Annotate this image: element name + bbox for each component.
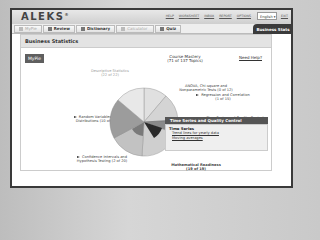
book-icon (81, 27, 85, 31)
calculator-icon (121, 27, 125, 31)
tab-quiz[interactable]: Quiz (155, 25, 181, 33)
course-mastery-title: Course Mastery(71 of 137 Topics) (150, 55, 220, 64)
need-help-link[interactable]: Need Help? (239, 55, 262, 60)
options-link[interactable]: OPTIONS (237, 14, 251, 18)
inbox-link[interactable]: INBOX (204, 14, 214, 18)
tab-review[interactable]: Review (43, 25, 75, 33)
arrow-icon (77, 156, 80, 158)
topic-link-moving-averages[interactable]: Moving averages (169, 136, 264, 141)
mypie-button[interactable]: MyPie (25, 54, 44, 63)
label-mathematical-readiness[interactable]: Mathematical Readiness(19 of 19) (166, 163, 226, 172)
label-regression[interactable]: Regression and Correlation(1 of 15) (188, 93, 258, 102)
top-bar: ALEKS® HELP WORKSHEET INBOX REPORT OPTIO… (12, 10, 291, 25)
language-select[interactable]: English ▾ (257, 12, 277, 20)
quiz-icon (160, 27, 164, 31)
arrow-icon (196, 94, 199, 96)
exit-link[interactable]: EXIT (281, 14, 288, 18)
pie-icon (19, 27, 23, 31)
tooltip-body: Time Series Trend lines for yearly data … (165, 124, 268, 151)
panel-title: Business Statistics (21, 35, 271, 48)
tab-calculator[interactable]: Calculator (116, 25, 154, 33)
tab-mypie[interactable]: MyPie (14, 25, 42, 33)
worksheet-link[interactable]: WORKSHEET (179, 14, 199, 18)
aleks-logo: ALEKS® (21, 11, 70, 22)
course-tab[interactable]: Business Stats (253, 24, 293, 34)
tooltip-header: Time Series and Quality Control (165, 117, 268, 124)
help-link[interactable]: HELP (166, 14, 174, 18)
tool-tabs: MyPie Review Dictionary Calculator Quiz (12, 24, 291, 34)
label-descriptive-statistics[interactable]: Descriptive Statistics(22 of 22) (80, 69, 140, 78)
arrow-icon (74, 116, 77, 118)
tab-dictionary[interactable]: Dictionary (76, 25, 115, 33)
top-links: HELP WORKSHEET INBOX REPORT OPTIONS (166, 14, 251, 18)
topic-tooltip: Time Series and Quality Control Time Ser… (165, 117, 268, 154)
review-icon (48, 27, 52, 31)
report-link[interactable]: REPORT (219, 14, 232, 18)
